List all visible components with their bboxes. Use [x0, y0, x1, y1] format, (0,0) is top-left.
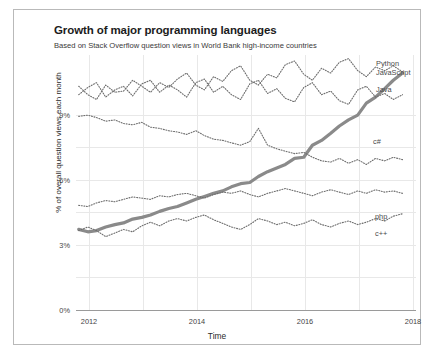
series-label-javascript: JavaScript — [376, 68, 411, 77]
series-path-java — [79, 79, 403, 104]
x-tick-label: 2014 — [177, 317, 217, 326]
series-label-php: php — [375, 212, 387, 221]
chart-title: Growth of major programming languages — [54, 24, 277, 36]
series-lines — [76, 55, 416, 310]
series-path-c- — [79, 214, 403, 237]
series-label-python: Python — [376, 59, 399, 68]
series-path-javascript — [79, 59, 403, 100]
series-label-csharp: c# — [373, 137, 381, 146]
plot-area — [76, 55, 416, 310]
series-label-java: Java — [376, 85, 392, 94]
chart-figure: Growth of major programming languages Ba… — [0, 0, 434, 360]
y-axis-title: % of overall question views each month — [54, 53, 63, 233]
x-tick-label: 2018 — [393, 317, 433, 326]
chart-subtitle: Based on Stack Overflow question views i… — [54, 41, 317, 50]
chart-panel: Growth of major programming languages Ba… — [13, 9, 421, 345]
series-path-php — [79, 189, 403, 207]
series-label-cpp: c++ — [375, 229, 387, 238]
x-tick-label: 2012 — [69, 317, 109, 326]
x-axis-line — [76, 310, 416, 311]
x-axis-title: Time — [0, 331, 434, 341]
x-tick-label: 2016 — [285, 317, 325, 326]
y-tick-label: 0% — [44, 306, 70, 315]
series-path-c- — [79, 115, 403, 164]
series-path-python — [79, 73, 403, 232]
y-tick-label: 3% — [44, 241, 70, 250]
